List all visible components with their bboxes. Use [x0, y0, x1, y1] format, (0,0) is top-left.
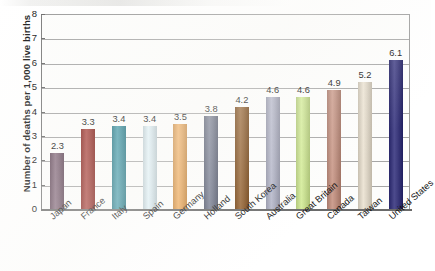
- bar[interactable]: [112, 126, 126, 209]
- bar-value-label: 2.3: [44, 141, 70, 151]
- bar-value-label: 3.4: [106, 114, 132, 124]
- bar-value-label: 3.3: [75, 117, 101, 127]
- y-tick-mark: [41, 87, 45, 88]
- bar[interactable]: [235, 107, 249, 209]
- bar-value-label: 4.2: [229, 95, 255, 105]
- y-tick-mark: [41, 63, 45, 64]
- y-tick-label: 3: [7, 130, 37, 141]
- bar-value-label: 5.2: [352, 70, 378, 80]
- bar[interactable]: [296, 97, 310, 209]
- bar-value-label: 4.6: [260, 85, 286, 95]
- y-tick-label: 5: [7, 81, 37, 92]
- y-tick-mark: [41, 160, 45, 161]
- bar[interactable]: [389, 60, 403, 209]
- bar[interactable]: [81, 129, 95, 209]
- bar-value-label: 3.8: [198, 104, 224, 114]
- bar[interactable]: [173, 124, 187, 209]
- y-tick-mark: [41, 209, 45, 210]
- gridline: [42, 64, 409, 65]
- y-tick-label: 8: [7, 8, 37, 19]
- gridline: [42, 113, 409, 114]
- y-tick-mark: [41, 112, 45, 113]
- y-tick-mark: [41, 38, 45, 39]
- gridline: [42, 39, 409, 40]
- y-tick-mark: [41, 185, 45, 186]
- plot-area: [41, 14, 410, 210]
- bar[interactable]: [143, 126, 157, 209]
- bar-value-label: 4.6: [290, 85, 316, 95]
- gridline: [42, 186, 409, 187]
- bar-value-label: 3.4: [137, 114, 163, 124]
- gridlines: [42, 15, 409, 210]
- bar[interactable]: [358, 82, 372, 209]
- y-tick-label: 0: [7, 203, 37, 214]
- y-tick-label: 1: [7, 179, 37, 190]
- y-tick-label: 2: [7, 154, 37, 165]
- gridline: [42, 161, 409, 162]
- bar-value-label: 4.9: [321, 78, 347, 88]
- bar-value-label: 3.5: [167, 112, 193, 122]
- gridline: [42, 88, 409, 89]
- y-axis-tick-labels: 876543210: [3, 0, 37, 271]
- y-tick-label: 6: [7, 57, 37, 68]
- y-tick-label: 7: [7, 32, 37, 43]
- bar-value-label: 6.1: [383, 48, 409, 58]
- y-tick-mark: [41, 136, 45, 137]
- y-tick-mark: [41, 14, 45, 15]
- y-tick-label: 4: [7, 106, 37, 117]
- bar[interactable]: [204, 116, 218, 209]
- gridline: [42, 137, 409, 138]
